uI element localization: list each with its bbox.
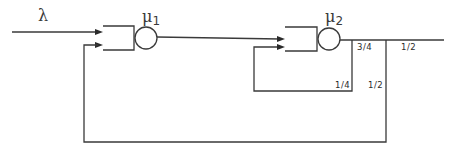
routing-self-feedback-label: 1/4 <box>335 80 350 90</box>
station-2-rate-label: μ2 <box>325 7 343 28</box>
queueing-network-diagram: λ μ1 μ2 3/4 1/2 1/4 1/2 <box>0 0 454 147</box>
station-2: μ2 <box>285 7 343 51</box>
routing-continue-label: 3/4 <box>357 42 372 52</box>
station-1-queue-buffer <box>103 26 134 50</box>
station-2-server-icon <box>318 28 340 50</box>
station-1-server-icon <box>135 27 157 49</box>
station-2-queue-buffer <box>285 27 317 51</box>
station-1-to-station-2-edge <box>157 37 280 39</box>
station-1-rate-label: μ1 <box>142 7 160 28</box>
station-1: μ1 <box>103 7 160 50</box>
arrival-arrow-icon <box>95 29 103 35</box>
self-feedback-arrow-icon <box>277 44 285 50</box>
arrival-rate-label: λ <box>38 6 48 25</box>
routing-exit-label: 1/2 <box>401 42 416 52</box>
station-2-input-arrow-icon <box>277 36 285 42</box>
routing-feedback-station-1-label: 1/2 <box>368 80 383 90</box>
